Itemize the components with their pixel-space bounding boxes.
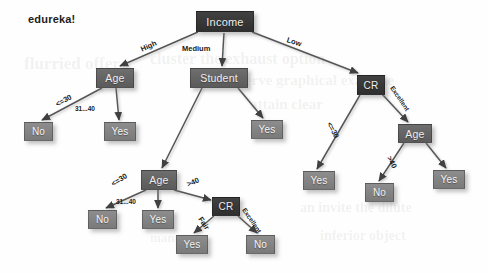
page-watermark: an invite the dilute [300, 200, 412, 216]
tree-node-yes_student[interactable]: Yes [251, 120, 283, 139]
tree-edge-cr_bottom-to-yes_cb [194, 216, 214, 233]
tree-edge-cr_right-to-age_right [382, 94, 408, 122]
tree-node-label: No [32, 126, 45, 137]
tree-node-no_m1[interactable]: No [88, 210, 117, 229]
tree-node-label: Yes [441, 174, 458, 185]
tree-edge-student-to-age_mid [162, 88, 202, 168]
tree-node-cr_right[interactable]: CR [357, 75, 385, 95]
tree-edge-label-income-age_left: High [139, 39, 158, 54]
tree-edge-label-age_mid-yes_m1: 31...40 [116, 198, 136, 205]
tree-node-label: No [373, 187, 386, 198]
tree-node-yes_ra[interactable]: Yes [433, 170, 465, 189]
tree-node-label: Yes [259, 124, 276, 135]
tree-node-label: Age [405, 128, 424, 140]
tree-node-income[interactable]: Income [196, 11, 254, 32]
tree-node-student[interactable]: Student [190, 68, 248, 88]
tree-edge-age_left-to-yes_l1 [116, 88, 119, 120]
tree-node-no_l1[interactable]: No [24, 122, 53, 141]
tree-node-label: No [254, 239, 267, 250]
tree-edge-label-income-cr_right: Low [286, 35, 303, 48]
tree-node-label: Student [200, 72, 238, 84]
tree-edge-label-age_mid-cr_bottom: >40 [185, 176, 200, 189]
tree-edge-income-to-cr_right [252, 32, 358, 73]
page-watermark: attain clear [250, 96, 323, 113]
tree-node-yes_rc[interactable]: Yes [303, 171, 335, 190]
tree-node-label: Yes [112, 126, 129, 137]
tree-edge-income-to-age_left [120, 32, 198, 66]
tree-edge-label-age_left-yes_l1: 31...40 [75, 105, 95, 112]
tree-edge-label-cr_right-age_right: Excellent [389, 85, 411, 113]
tree-edge-cr_bottom-to-no_cb [238, 216, 257, 233]
tree-edge-income-to-student [222, 33, 224, 66]
tree-node-cr_bottom[interactable]: CR [212, 197, 240, 216]
page-watermark: inferior object [320, 228, 406, 244]
tree-edge-age_left-to-no_l1 [42, 88, 102, 120]
tree-node-label: CR [219, 201, 234, 212]
tree-edge-age_right-to-no_ra [379, 143, 404, 181]
tree-edge-age_mid-to-no_m1 [106, 190, 146, 208]
tree-edge-label-cr_bottom-yes_cb: Fair [196, 215, 211, 231]
tree-edge-age_right-to-yes_ra [426, 143, 446, 168]
tree-node-age_left[interactable]: Age [96, 68, 134, 88]
tree-node-yes_cb[interactable]: Yes [176, 235, 208, 254]
tree-node-label: Yes [184, 239, 201, 250]
tree-node-label: Age [149, 174, 168, 186]
tree-node-age_mid[interactable]: Age [141, 170, 177, 190]
tree-edge-label-income-student: Medium [182, 44, 210, 53]
page-watermark: cluster the exhaust option [150, 50, 325, 68]
tree-edge-label-cr_right-yes_rc: <=30 [325, 120, 341, 139]
diagram-canvas: flurried offercluster the exhaust option… [0, 0, 488, 273]
tree-edge-student-to-yes_student [238, 88, 263, 118]
tree-edge-label-age_left-no_l1: <=30 [54, 92, 73, 108]
tree-node-age_right[interactable]: Age [398, 124, 432, 143]
tree-node-label: Yes [311, 175, 328, 186]
tree-node-yes_l1[interactable]: Yes [104, 122, 136, 141]
tree-edge-cr_right-to-yes_rc [317, 95, 360, 169]
tree-edge-label-age_right-no_ra: >40 [385, 154, 399, 169]
tree-node-label: Income [206, 16, 243, 28]
tree-node-no_cb[interactable]: No [246, 235, 275, 254]
edureka-logo: edureka! [28, 13, 75, 25]
tree-edge-label-age_mid-no_m1: <=30 [110, 171, 129, 188]
tree-edge-label-cr_bottom-no_cb: Excellent [241, 207, 263, 235]
tree-node-label: CR [364, 80, 379, 91]
tree-node-label: Age [105, 72, 124, 84]
tree-node-label: Yes [150, 214, 167, 225]
tree-node-no_ra[interactable]: No [365, 183, 394, 202]
tree-node-label: No [96, 214, 109, 225]
tree-edge-age_mid-to-cr_bottom [174, 190, 211, 200]
tree-node-yes_m1[interactable]: Yes [142, 210, 174, 229]
